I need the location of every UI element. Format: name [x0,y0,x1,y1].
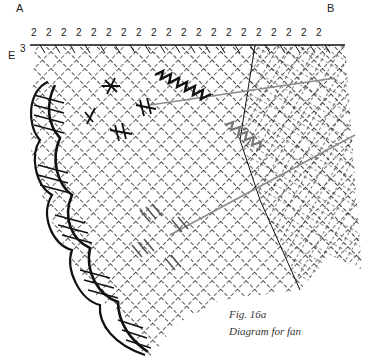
pair-count: 2 [166,28,172,38]
pair-count: 2 [211,28,217,38]
pair-count: 2 [271,28,277,38]
figure-caption: Fig. 16a Diagram for fan [229,306,301,339]
pair-count: 2 [241,28,247,38]
pair-count: 2 [106,28,112,38]
pair-count: 2 [46,28,52,38]
pair-count: 2 [91,28,97,38]
label-a: A [16,3,23,14]
label-e: E [8,50,15,61]
pair-count: 2 [181,28,187,38]
fan-lace-diagram [0,0,365,363]
pair-count: 2 [286,28,292,38]
pair-count: 2 [136,28,142,38]
label-e-superscript: 3 [20,44,26,54]
pair-count: 2 [301,28,307,38]
pair-count: 2 [76,28,82,38]
pair-count: 2 [196,28,202,38]
label-b: B [327,3,334,14]
pair-count: 2 [226,28,232,38]
pair-count: 2 [151,28,157,38]
pair-count: 2 [316,28,322,38]
pair-count: 2 [61,28,67,38]
figure-number: Fig. 16a [229,306,301,323]
pair-count: 2 [256,28,262,38]
pair-count: 2 [31,28,37,38]
pair-count: 2 [121,28,127,38]
figure-title: Diagram for fan [229,323,301,340]
